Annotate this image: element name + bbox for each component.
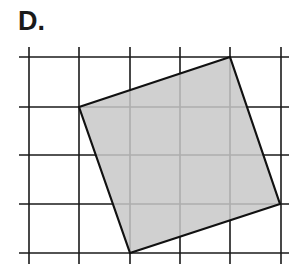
grid-diagram xyxy=(0,0,296,274)
tilted-square xyxy=(79,57,280,253)
